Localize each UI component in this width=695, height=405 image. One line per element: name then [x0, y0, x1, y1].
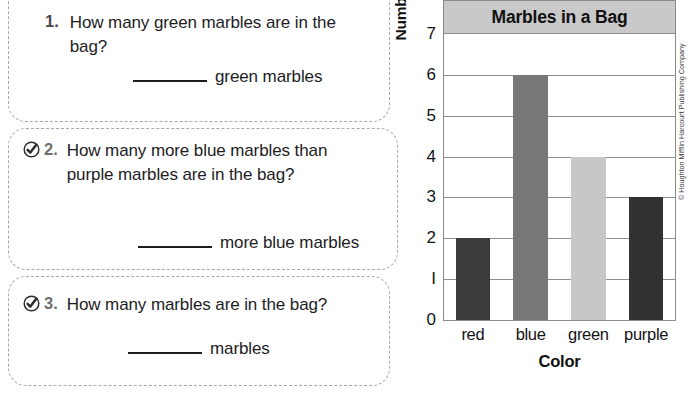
answer-blank-1[interactable] [133, 65, 207, 82]
answer-blank-2[interactable] [138, 231, 212, 248]
bar-chart: Number of Marbles Marbles in a Bag 0I234… [400, 0, 695, 405]
answer-blank-3[interactable] [128, 337, 202, 354]
question-box-3: 3. How many marbles are in the bag? marb… [8, 276, 390, 386]
question-1-header: 1. How many green marbles are in the bag… [45, 11, 360, 59]
x-axis-title: Color [443, 352, 676, 371]
bar-green [571, 157, 606, 320]
answer-unit-3: marbles [210, 339, 270, 359]
y-axis-tick-label: I [410, 269, 444, 289]
worksheet-panel: 1. How many green marbles are in the bag… [0, 0, 400, 405]
y-axis-tick-label: 0 [410, 310, 444, 330]
question-1-number: 1. [45, 12, 59, 31]
chart-title: Marbles in a Bag [492, 7, 628, 28]
question-3-number: 3. [44, 294, 58, 313]
y-axis-tick-label: 4 [410, 147, 444, 167]
question-3-header: 3. How many marbles are in the bag? [23, 293, 327, 317]
y-axis-tick-label: 7 [410, 24, 444, 44]
question-box-1: 1. How many green marbles are in the bag… [8, 0, 390, 122]
circled-check-icon [23, 141, 40, 158]
question-box-2: 2. How many more blue marbles than purpl… [8, 128, 398, 270]
plot-area: 0I234567redbluegreenpurple [443, 33, 676, 321]
y-axis-tick-label: 2 [410, 228, 444, 248]
chart-title-band: Marbles in a Bag [443, 0, 676, 33]
question-3-text: How many marbles are in the bag? [67, 293, 327, 317]
bar-blue [513, 75, 548, 320]
bar-red [456, 238, 491, 320]
x-axis-tick-label: red [461, 325, 484, 344]
question-2-header: 2. How many more blue marbles than purpl… [23, 139, 357, 187]
circled-check-icon [23, 295, 40, 312]
bar-purple [629, 197, 664, 320]
x-axis-tick-label: green [568, 325, 609, 344]
question-2-number: 2. [44, 140, 58, 159]
x-axis-tick-label: purple [624, 325, 668, 344]
question-3-answer-row: marbles [128, 337, 270, 359]
answer-unit-2: more blue marbles [220, 233, 359, 253]
question-2-answer-row: more blue marbles [138, 231, 359, 253]
copyright-notice: © Houghton Mifflin Harcourt Publishing C… [677, 43, 686, 200]
x-axis-tick-label: blue [516, 325, 546, 344]
answer-unit-1: green marbles [215, 67, 322, 87]
y-axis-title: Number of Marbles [392, 0, 410, 72]
question-1-text: How many green marbles are in the bag? [70, 11, 360, 59]
question-2-text: How many more blue marbles than purple m… [67, 139, 357, 187]
y-axis-tick-label: 3 [410, 187, 444, 207]
question-1-answer-row: green marbles [133, 65, 322, 87]
y-axis-tick-label: 5 [410, 106, 444, 126]
y-axis-tick-label: 6 [410, 65, 444, 85]
bar-series [444, 34, 675, 320]
